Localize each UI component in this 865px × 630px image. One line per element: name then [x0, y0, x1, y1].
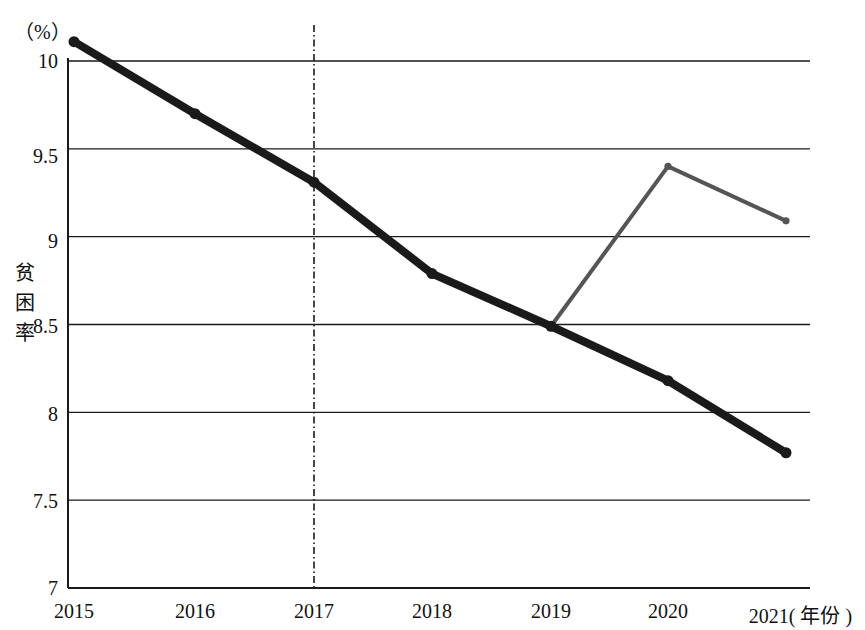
gridlines-group [68, 61, 810, 588]
data-point-actual-2020 [663, 375, 674, 386]
data-point-actual-2021 [781, 447, 792, 458]
chart-plot-area [0, 0, 865, 630]
counterfactual-line [551, 166, 786, 326]
data-point-counterfactual-2021 [782, 217, 789, 224]
actual-line [74, 42, 786, 453]
data-point-actual-2016 [190, 108, 201, 119]
chart-page: （%） 贫 困 率 10 9.5 9 8.5 8 7.5 7 2015 2016… [0, 0, 865, 630]
data-point-actual-2018 [427, 268, 438, 279]
data-point-actual-2015 [69, 36, 80, 47]
data-point-counterfactual-2020 [664, 163, 671, 170]
counterfactual-point-markers [547, 163, 789, 330]
data-point-actual-2019 [546, 321, 557, 332]
data-point-actual-2017 [309, 177, 320, 188]
